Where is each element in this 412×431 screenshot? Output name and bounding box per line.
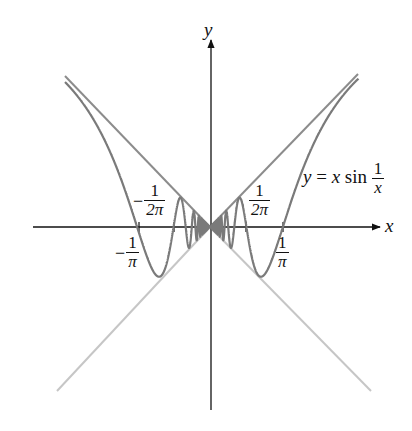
function-label-lhs: y [303,166,311,187]
tick-label-pos-1-over-2pi: 12π [249,182,270,220]
function-label: y = x sin 1 x [303,160,384,198]
plot-canvas [0,0,412,431]
tick-label-pos-1-over-pi: 1π [276,234,289,272]
tick-label-neg-1-over-2pi: −12π [133,182,165,220]
function-label-fraction: 1 x [372,160,385,198]
function-label-x: x [332,166,340,187]
lower-bound-line-right [210,227,371,391]
fraction-numerator: 1 [372,160,385,178]
upper-bound-line-right [210,74,358,227]
function-label-eq: = [316,166,327,187]
fraction-denominator: x [372,178,384,198]
function-label-sin: sin [345,166,367,187]
y-axis-label: y [204,20,212,39]
tick-label-neg-1-over-pi: −1π [115,234,139,272]
x-axis-label: x [385,216,393,235]
